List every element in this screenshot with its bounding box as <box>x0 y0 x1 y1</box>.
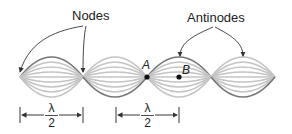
wave-loop-1 <box>20 57 83 97</box>
lambda-numerator-1: λ <box>45 102 59 114</box>
antinodes-arrows <box>180 27 243 56</box>
point-b-dot <box>176 74 181 79</box>
wave-loop-2 <box>83 57 147 97</box>
nodes-label: Nodes <box>72 8 110 23</box>
point-b-label: B <box>182 63 190 77</box>
antinodes-label: Antinodes <box>187 10 245 25</box>
point-a-dot <box>144 74 149 79</box>
lambda-denominator-1: 2 <box>45 117 59 129</box>
wave-loop-4 <box>211 57 275 97</box>
standing-wave-diagram: Nodes Antinodes A B λ 2 λ 2 <box>0 0 292 134</box>
nodes-arrows <box>20 26 86 72</box>
lambda-denominator-2: 2 <box>141 117 155 129</box>
point-a-label: A <box>142 58 150 72</box>
lambda-numerator-2: λ <box>141 102 155 114</box>
